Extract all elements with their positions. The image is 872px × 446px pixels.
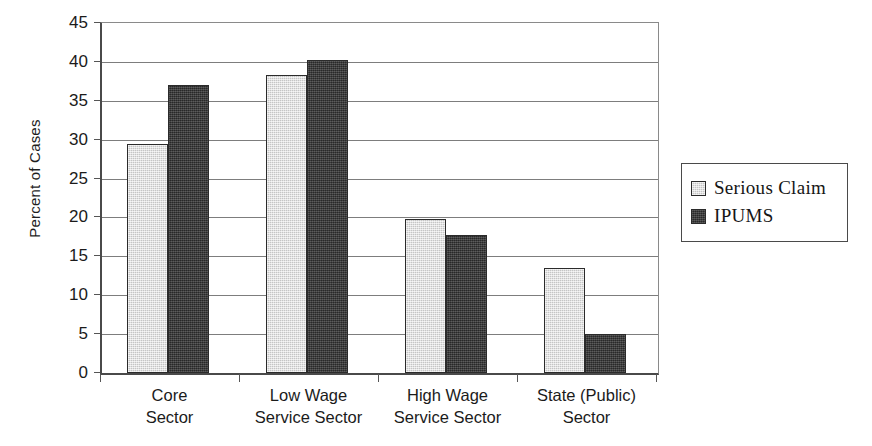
bar [168, 85, 209, 373]
legend-item-label: IPUMS [714, 205, 774, 227]
legend-item: Serious Claim [691, 174, 838, 202]
bar [266, 75, 307, 373]
x-axis-tick-mark [239, 374, 240, 382]
light-gray-swatch [691, 181, 706, 196]
x-axis-tick-mark [100, 374, 101, 382]
bar [307, 60, 348, 373]
y-axis-tick-label: 30 [40, 130, 88, 147]
bar-group [241, 23, 380, 373]
bar [405, 219, 446, 373]
bar-group [380, 23, 519, 373]
legend-item: IPUMS [691, 202, 838, 230]
bar [544, 268, 585, 373]
plot-area [100, 22, 659, 375]
y-axis-tick-label: 35 [40, 91, 88, 108]
x-axis-tick-mark [656, 374, 657, 382]
y-axis-tick-label: 5 [40, 325, 88, 342]
y-axis-tick-label: 40 [40, 52, 88, 69]
y-axis-tick-label: 15 [40, 247, 88, 264]
bar-group [519, 23, 658, 373]
x-axis-tick-marks [100, 374, 656, 382]
y-axis-tick-label: 0 [40, 364, 88, 381]
bar-group [102, 23, 241, 373]
y-axis-tick-label: 10 [40, 286, 88, 303]
x-axis-tick-mark [378, 374, 379, 382]
bar [446, 235, 487, 373]
y-axis-tick-label: 45 [40, 14, 88, 31]
y-axis-tick-label-list: 051015202530354045 [40, 22, 88, 372]
bars-layer [102, 23, 658, 373]
y-axis-tick-label: 25 [40, 169, 88, 186]
bar [127, 144, 168, 373]
x-axis-category-labels: Core SectorLow Wage Service SectorHigh W… [100, 384, 656, 444]
bar-chart: Percent of Cases 051015202530354045 Core… [0, 0, 872, 446]
legend-box: Serious ClaimIPUMS [681, 163, 848, 242]
dark-gray-swatch [691, 209, 706, 224]
x-axis-tick-mark [517, 374, 518, 382]
y-axis-tick-label: 20 [40, 208, 88, 225]
legend-item-label: Serious Claim [714, 177, 826, 199]
x-axis-category-label: State (Public) Sector [505, 384, 668, 429]
bar [585, 334, 626, 373]
